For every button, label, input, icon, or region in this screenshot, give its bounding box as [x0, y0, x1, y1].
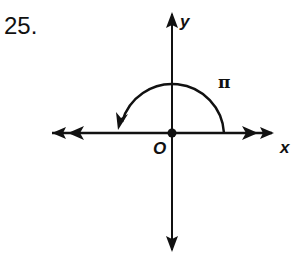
x-axis-label: x	[279, 138, 291, 157]
x-axis-right-arrow-icon	[242, 126, 274, 140]
x-axis-left-arrow-icon	[52, 126, 84, 140]
coordinate-diagram: y x O π	[0, 0, 305, 256]
y-axis-label: y	[179, 12, 191, 31]
origin-label: O	[153, 139, 166, 158]
angle-label: π	[218, 72, 230, 92]
arc-arrowhead-icon	[116, 112, 128, 130]
origin-point	[168, 129, 177, 138]
